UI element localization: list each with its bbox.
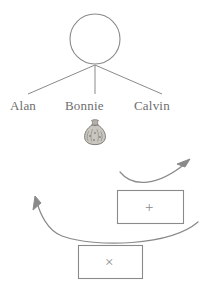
plus-icon: +: [145, 200, 153, 215]
root-circle: [70, 14, 120, 64]
money-bag-speck-2: [94, 132, 96, 134]
diagram-canvas: Alan Bonnie Calvin + ×: [0, 0, 200, 294]
arrow-up-left-head: [33, 196, 41, 210]
multiply-icon: ×: [105, 255, 113, 270]
money-bag-icon: [80, 117, 110, 147]
name-label-bonnie: Bonnie: [65, 98, 104, 114]
money-bag-speck-3: [99, 136, 101, 138]
money-bag-speck-4: [93, 139, 95, 141]
branch-lines: [28, 65, 162, 94]
arrow-up-right-head: [177, 159, 190, 167]
name-label-alan: Alan: [10, 98, 36, 114]
arrow-up-right-curve: [120, 163, 186, 182]
name-label-calvin: Calvin: [134, 98, 170, 114]
arrow-up-right: [120, 159, 190, 182]
branch-line-calvin: [95, 65, 162, 94]
money-bag-tie: [92, 120, 99, 125]
money-bag-speck-1: [89, 135, 91, 137]
branch-line-alan: [28, 65, 95, 94]
diagram-scene: [0, 0, 200, 294]
